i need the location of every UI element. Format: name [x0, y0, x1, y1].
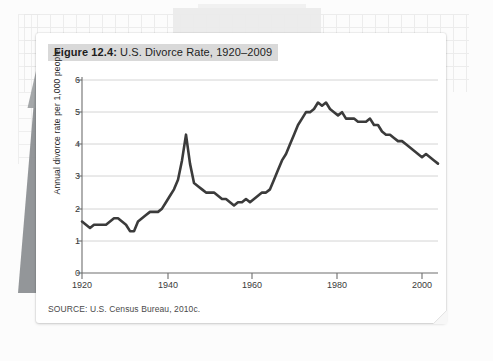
divorce-rate-data-line: [82, 103, 438, 232]
y-tick-label-3: 3: [64, 171, 80, 181]
x-tick-label-1960: 1960: [242, 280, 262, 290]
y-tick-label-0: 0: [64, 268, 80, 278]
chart-axes: [77, 77, 438, 279]
y-tick-label-1: 1: [64, 236, 80, 246]
figure-card: Figure 12.4: U.S. Divorce Rate, 1920–200…: [36, 33, 446, 323]
y-tick-label-6: 6: [64, 75, 80, 85]
x-tick-label-2000: 2000: [412, 280, 432, 290]
y-axis-title: Annual divorce rate per 1,000 people: [52, 22, 62, 222]
chart-plot-area: Annual divorce rate per 1,000 people 6 5…: [36, 33, 446, 323]
x-tick-label-1940: 1940: [158, 280, 178, 290]
y-tick-label-5: 5: [64, 107, 80, 117]
gridlines: [82, 80, 438, 241]
x-tick-label-1980: 1980: [327, 280, 347, 290]
y-tick-label-4: 4: [64, 139, 80, 149]
y-tick-label-2: 2: [64, 204, 80, 214]
card-corner-fold: [433, 310, 447, 324]
source-note: SOURCE: U.S. Census Bureau, 2010c.: [48, 304, 200, 314]
x-tick-label-1920: 1920: [72, 280, 92, 290]
